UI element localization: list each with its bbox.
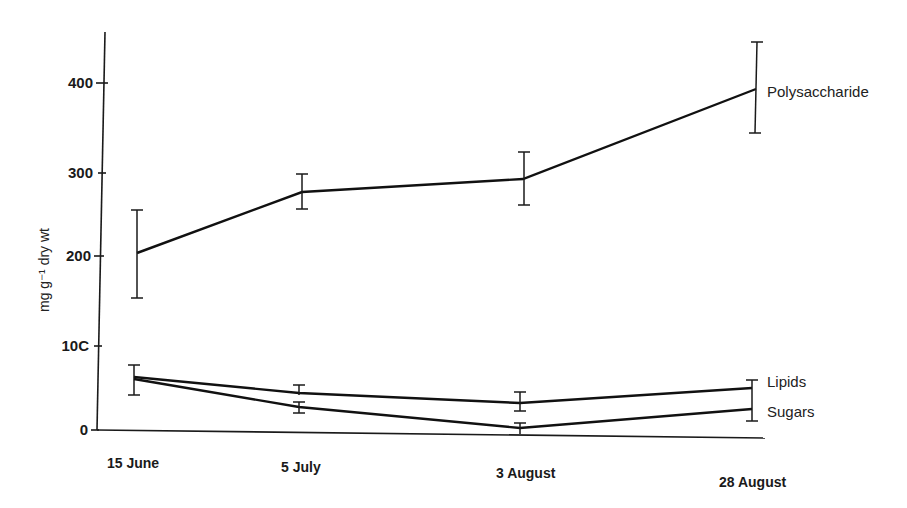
x-label-5-july: 5 July <box>281 459 321 475</box>
x-label-3-august: 3 August <box>496 465 556 481</box>
y-tick-label-0: 0 <box>80 421 88 438</box>
x-label-15-june: 15 June <box>107 455 159 471</box>
series-label-lipids: Lipids <box>767 373 806 390</box>
y-tick-label-400: 400 <box>68 74 93 91</box>
x-label-28-august: 28 August <box>719 474 786 490</box>
y-axis <box>97 32 105 430</box>
y-tick-label-200: 200 <box>66 247 91 264</box>
y-axis-title: mg g⁻¹ dry wt <box>36 228 52 312</box>
series-polysaccharide <box>131 42 763 298</box>
error-bars-sugars <box>293 402 758 434</box>
error-bars-polysaccharide <box>131 42 763 298</box>
y-tick-label-300: 300 <box>68 164 93 181</box>
y-ticks <box>91 83 108 430</box>
x-axis <box>97 430 765 438</box>
series-label-sugars: Sugars <box>767 403 815 420</box>
line-chart: 400 300 200 10C 0 mg g⁻¹ dry wt 15 June … <box>0 0 907 508</box>
series-label-polysaccharide: Polysaccharide <box>767 83 869 100</box>
y-tick-label-100: 10C <box>61 337 89 354</box>
